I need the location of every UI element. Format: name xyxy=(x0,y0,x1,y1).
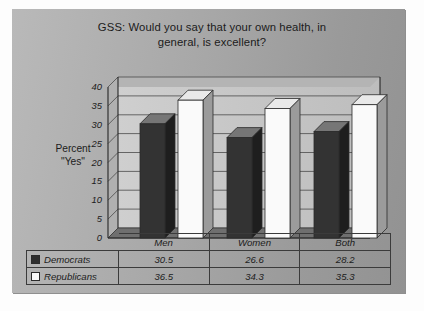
legend-label-democrats: Democrats xyxy=(44,254,90,265)
data-table-wrapper: Men Women Both Democrats 30.5 26.6 28.2 … xyxy=(26,233,391,285)
svg-text:5: 5 xyxy=(97,213,103,224)
svg-text:35: 35 xyxy=(92,100,103,111)
column-header-men: Men xyxy=(119,234,210,251)
data-table: Men Women Both Democrats 30.5 26.6 28.2 … xyxy=(26,233,391,285)
cell-republicans-men: 36.5 xyxy=(119,268,210,285)
slide-canvas: GSS: Would you say that your own health,… xyxy=(12,9,405,293)
legend-label-republicans: Republicans xyxy=(44,271,97,282)
y-axis-ticks: 40 35 30 25 20 15 10 5 0 xyxy=(91,81,103,243)
svg-text:15: 15 xyxy=(92,175,103,186)
outlined-white-square-icon xyxy=(31,272,40,281)
cell-democrats-both: 28.2 xyxy=(300,251,391,268)
table-row: Republicans 36.5 34.3 35.3 xyxy=(27,268,391,285)
legend-item-democrats: Democrats xyxy=(27,251,119,268)
svg-text:30: 30 xyxy=(92,119,103,130)
table-row: Democrats 30.5 26.6 28.2 xyxy=(27,251,391,268)
bar-women-democrats xyxy=(227,128,262,238)
cell-democrats-women: 26.6 xyxy=(209,251,300,268)
svg-text:10: 10 xyxy=(92,194,103,205)
svg-text:25: 25 xyxy=(91,138,103,149)
legend-item-republicans: Republicans xyxy=(27,268,119,285)
bar-both-republicans xyxy=(352,95,387,238)
table-header-row: Men Women Both xyxy=(27,234,391,251)
svg-text:20: 20 xyxy=(91,157,103,168)
bar-men-republicans xyxy=(178,90,213,238)
table-corner-cell xyxy=(27,234,119,251)
bar-men-democrats xyxy=(140,114,175,238)
column-header-women: Women xyxy=(209,234,300,251)
cell-democrats-men: 30.5 xyxy=(119,251,210,268)
column-header-both: Both xyxy=(300,234,391,251)
bar-women-republicans xyxy=(265,99,300,239)
svg-text:40: 40 xyxy=(92,81,103,92)
cell-republicans-both: 35.3 xyxy=(300,268,391,285)
bar-both-democrats xyxy=(314,122,349,238)
filled-dark-square-icon xyxy=(31,255,40,264)
cell-republicans-women: 34.3 xyxy=(209,268,300,285)
